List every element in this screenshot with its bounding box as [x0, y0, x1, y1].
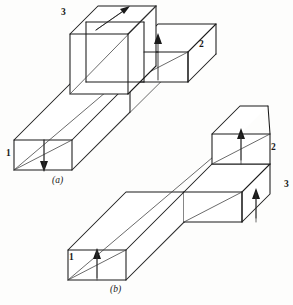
view-b-label-1: 1 — [69, 253, 74, 263]
view-a-label-1: 1 — [6, 149, 11, 159]
view-b-label-2: 2 — [271, 143, 276, 153]
view-b-label-3: 3 — [284, 180, 289, 190]
view-b-caption: (b) — [110, 285, 121, 295]
isometric-figure-svg — [0, 0, 293, 305]
view-a-caption: (a) — [52, 176, 63, 186]
figure-root: 3 2 1 (a) 2 3 1 (b) — [0, 0, 293, 305]
view-a-label-3: 3 — [61, 8, 66, 18]
view-a-geometry — [14, 6, 216, 172]
view-a-label-2: 2 — [199, 40, 204, 50]
